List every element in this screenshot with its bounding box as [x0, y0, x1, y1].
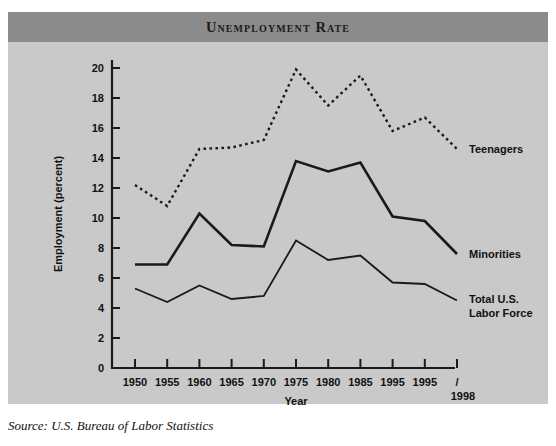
series-label-total-labor-force-line2: Labor Force	[469, 307, 533, 319]
source-note: Source: U.S. Bureau of Labor Statistics	[8, 418, 213, 434]
x-tick-label-final: 1998	[451, 390, 475, 402]
x-tick-label: 1970	[252, 376, 276, 388]
x-axis-break-marker: /	[455, 376, 458, 388]
y-tick-label: 0	[98, 362, 104, 374]
axis-lines	[112, 60, 455, 368]
y-tick-label: 12	[92, 182, 104, 194]
x-tick-label: 1995	[413, 376, 437, 388]
x-tick-label: 1980	[316, 376, 340, 388]
series-line-total-u-s-labor-force	[135, 241, 457, 303]
series-label-total-labor-force-line1: Total U.S.	[469, 293, 519, 305]
x-tick-label: 1995	[380, 376, 404, 388]
x-tick-label: 1965	[219, 376, 243, 388]
y-tick-label: 10	[92, 212, 104, 224]
series-label-minorities: Minorities	[469, 248, 521, 260]
y-tick-label: 6	[98, 272, 104, 284]
y-tick-label: 8	[98, 242, 104, 254]
x-tick-label: 1985	[348, 376, 372, 388]
y-tick-label: 18	[92, 92, 104, 104]
y-axis-title: Employment (percent)	[52, 156, 64, 272]
y-axis-ticks: 02468101214161820	[92, 62, 120, 374]
unemployment-rate-figure: Unemployment Rate 02468101214161820Emplo…	[0, 0, 556, 446]
y-tick-label: 14	[92, 152, 105, 164]
x-tick-label: 1975	[284, 376, 308, 388]
y-tick-label: 4	[98, 302, 105, 314]
y-tick-label: 16	[92, 122, 104, 134]
x-tick-label: 1955	[155, 376, 179, 388]
series-line-teenagers	[135, 70, 457, 207]
y-tick-label: 2	[98, 332, 104, 344]
x-tick-label: 1950	[123, 376, 147, 388]
chart-plot-area: 02468101214161820Employment (percent)195…	[0, 0, 556, 446]
series-label-teenagers: Teenagers	[469, 143, 523, 155]
x-tick-label: 1960	[187, 376, 211, 388]
y-tick-label: 20	[92, 62, 104, 74]
x-axis-title: Year	[284, 395, 308, 407]
